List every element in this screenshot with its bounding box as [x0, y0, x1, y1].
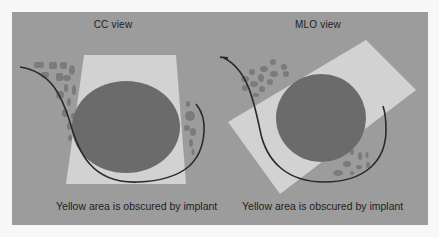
mlo-view-title: MLO view: [214, 19, 422, 30]
diagram-panel: CC view Yellow area is obscured by impla…: [12, 12, 428, 225]
mlo-view: MLO view Yellow area is obscured by impl…: [220, 12, 428, 225]
cc-view-title: CC view: [9, 19, 217, 30]
cc-view: CC view Yellow area is obscured by impla…: [12, 12, 220, 225]
implant: [72, 81, 180, 173]
mlo-view-caption: Yellow area is obscured by implant: [242, 200, 403, 212]
implant: [276, 74, 366, 162]
cc-view-illustration: [12, 12, 220, 225]
nipple-mark: [220, 57, 228, 58]
cc-view-caption: Yellow area is obscured by implant: [56, 200, 217, 212]
mlo-view-illustration: [220, 12, 428, 225]
